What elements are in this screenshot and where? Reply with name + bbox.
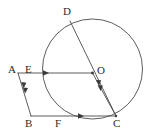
point-label-O: O — [97, 65, 105, 76]
point-label-E: E — [25, 64, 32, 75]
segment-OC — [93, 73, 117, 116]
geometry-figure: A E O D B F C — [0, 0, 146, 134]
main-circle — [43, 19, 143, 119]
geometry-canvas — [0, 0, 146, 134]
point-label-C: C — [113, 118, 120, 129]
point-label-A: A — [8, 64, 16, 75]
direction-markers-group — [21, 70, 103, 119]
arrow-marker-AO — [43, 70, 49, 76]
circle-group — [43, 19, 143, 119]
point-label-D: D — [63, 6, 71, 17]
segment-AB — [18, 73, 31, 116]
segment-DC — [70, 21, 116, 116]
point-label-B: B — [25, 118, 32, 129]
point-label-F: F — [55, 118, 61, 129]
point-dot-O — [91, 72, 94, 75]
